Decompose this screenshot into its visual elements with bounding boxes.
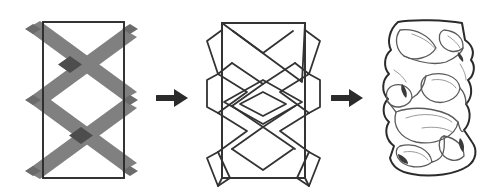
outline-lower-chevron [218, 152, 230, 178]
figure-root [0, 0, 500, 195]
stage-banded-rectangle [0, 0, 150, 195]
outline-upper-chevron-inner [233, 31, 293, 53]
outline-left-flap-upper [207, 30, 232, 74]
outline-lower-chevron-r [297, 152, 309, 178]
outline-right-flap-upper [295, 30, 320, 74]
stage-organic-form [360, 0, 500, 195]
arrow-right-icon [156, 89, 188, 107]
outline-low-left-inner [232, 106, 263, 149]
stage-outlined-pattern [185, 0, 330, 195]
outline-bottom-inner-left [232, 149, 293, 170]
outline-right-flap-mid [309, 74, 320, 113]
outline-left-flap-mid [207, 74, 218, 113]
arrow-right-icon [331, 89, 363, 107]
outline-low-right-inner [263, 106, 295, 149]
